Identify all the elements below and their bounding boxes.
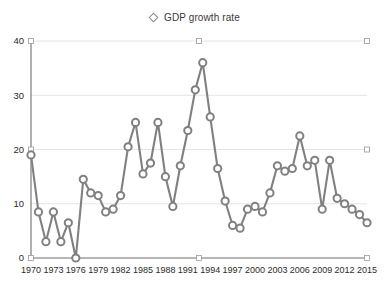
- x-tick-label-2006: 2006: [290, 265, 310, 275]
- x-tick-label-1982: 1982: [111, 265, 131, 275]
- data-point[interactable]: [110, 206, 117, 213]
- x-tick-label-2012: 2012: [335, 265, 355, 275]
- data-point[interactable]: [304, 162, 311, 169]
- data-point[interactable]: [222, 197, 229, 204]
- data-point[interactable]: [80, 176, 87, 183]
- data-point[interactable]: [274, 162, 281, 169]
- data-point[interactable]: [117, 192, 124, 199]
- x-tick-label-1979: 1979: [88, 265, 108, 275]
- x-tick-label-2000: 2000: [245, 265, 265, 275]
- data-point[interactable]: [169, 203, 176, 210]
- x-tick-label-1985: 1985: [133, 265, 153, 275]
- selection-handle-2-0[interactable]: [29, 256, 34, 261]
- selection-handle-2-1[interactable]: [197, 256, 202, 261]
- x-tick-label-1997: 1997: [223, 265, 243, 275]
- data-point[interactable]: [244, 206, 251, 213]
- data-point[interactable]: [207, 113, 214, 120]
- selection-handle-0-0[interactable]: [29, 39, 34, 44]
- data-point[interactable]: [296, 132, 303, 139]
- data-point[interactable]: [341, 200, 348, 207]
- x-tick-label-1988: 1988: [155, 265, 175, 275]
- selection-handle-1-2[interactable]: [365, 147, 370, 152]
- data-point[interactable]: [236, 225, 243, 232]
- data-point[interactable]: [95, 192, 102, 199]
- data-point[interactable]: [72, 254, 79, 261]
- data-point[interactable]: [289, 165, 296, 172]
- data-point[interactable]: [124, 143, 131, 150]
- data-point[interactable]: [87, 189, 94, 196]
- data-point[interactable]: [281, 168, 288, 175]
- x-tick-label-2003: 2003: [267, 265, 287, 275]
- data-point[interactable]: [35, 208, 42, 215]
- x-tick-label-1970: 1970: [21, 265, 41, 275]
- data-point[interactable]: [363, 219, 370, 226]
- y-tick-label-20: 20: [13, 144, 24, 155]
- data-point[interactable]: [326, 157, 333, 164]
- data-point[interactable]: [27, 151, 34, 158]
- x-tick-label-1994: 1994: [200, 265, 220, 275]
- data-point[interactable]: [139, 170, 146, 177]
- data-point[interactable]: [214, 165, 221, 172]
- data-point[interactable]: [229, 222, 236, 229]
- data-point[interactable]: [184, 127, 191, 134]
- y-tick-label-0: 0: [19, 252, 24, 263]
- selection-handle-0-1[interactable]: [197, 39, 202, 44]
- x-tick-label-2015: 2015: [357, 265, 377, 275]
- data-point[interactable]: [57, 238, 64, 245]
- x-tick-label-1991: 1991: [178, 265, 198, 275]
- chart-container: GDP growth rate 010203040197019731976197…: [0, 0, 390, 289]
- data-point[interactable]: [192, 86, 199, 93]
- x-tick-label-1976: 1976: [66, 265, 86, 275]
- data-point[interactable]: [266, 189, 273, 196]
- y-tick-label-30: 30: [13, 90, 24, 101]
- data-point[interactable]: [334, 195, 341, 202]
- data-point[interactable]: [42, 238, 49, 245]
- y-tick-label-10: 10: [13, 198, 24, 209]
- data-point[interactable]: [132, 119, 139, 126]
- data-point[interactable]: [259, 208, 266, 215]
- plot-area: 0102030401970197319761979198219851988199…: [0, 0, 390, 289]
- data-point[interactable]: [199, 59, 206, 66]
- data-point[interactable]: [162, 173, 169, 180]
- x-tick-label-1973: 1973: [43, 265, 63, 275]
- data-point[interactable]: [348, 206, 355, 213]
- y-tick-label-40: 40: [13, 35, 24, 46]
- selection-handle-2-2[interactable]: [365, 256, 370, 261]
- selection-handle-0-2[interactable]: [365, 39, 370, 44]
- data-point[interactable]: [154, 119, 161, 126]
- data-point[interactable]: [319, 206, 326, 213]
- data-point[interactable]: [102, 208, 109, 215]
- data-point[interactable]: [65, 219, 72, 226]
- data-point[interactable]: [177, 162, 184, 169]
- data-point[interactable]: [251, 203, 258, 210]
- x-tick-label-2009: 2009: [312, 265, 332, 275]
- data-point[interactable]: [147, 159, 154, 166]
- data-point[interactable]: [356, 211, 363, 218]
- data-point[interactable]: [50, 208, 57, 215]
- data-point[interactable]: [311, 157, 318, 164]
